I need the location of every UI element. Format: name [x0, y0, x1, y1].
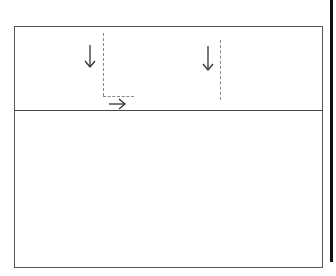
- arrow-down-icon: [202, 46, 214, 72]
- guide-horizontal-1: [103, 96, 134, 97]
- bottom-panel: [15, 111, 322, 267]
- right-edge-bar: [330, 0, 333, 262]
- arrow-down-icon: [84, 45, 96, 69]
- panel-divider: [14, 110, 323, 111]
- guide-vertical-2: [220, 40, 221, 100]
- guide-vertical-1: [103, 33, 104, 96]
- top-panel: [15, 27, 322, 110]
- arrow-right-icon: [109, 98, 127, 110]
